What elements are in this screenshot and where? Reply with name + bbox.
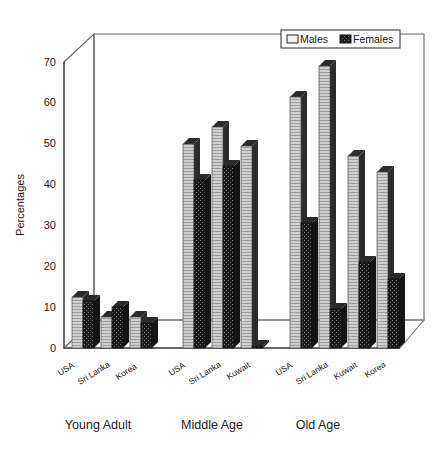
chart-canvas: 0 10 20 30 40 50 60 70 Percentages (0, 0, 433, 461)
group-label-middle-age: Middle Age (181, 418, 243, 432)
y-tick-20: 20 (44, 260, 56, 272)
bar-chart: 0 10 20 30 40 50 60 70 Percentages (0, 0, 433, 461)
y-tick-50: 50 (44, 137, 56, 149)
bar-middle-age-sri-lanka-females (223, 160, 240, 348)
y-axis-title: Percentages (14, 174, 26, 236)
bar-old-age-kuwait-females (359, 256, 376, 348)
legend-swatch-females (340, 35, 351, 43)
y-tick-60: 60 (44, 96, 56, 108)
y-tick-70: 70 (44, 56, 56, 68)
legend-swatch-males (287, 35, 298, 43)
legend: Males Females (281, 30, 400, 48)
bar-young-adult-korea-females (141, 317, 158, 348)
group-label-old-age: Old Age (296, 418, 341, 432)
bar-old-age-usa-females (301, 217, 318, 348)
group-label-young-adult: Young Adult (65, 418, 132, 432)
legend-label-females: Females (353, 33, 393, 45)
y-tick-30: 30 (44, 219, 56, 231)
bar-middle-age-kuwait-males (241, 140, 258, 348)
bar-young-adult-usa-females (83, 295, 100, 348)
y-tick-10: 10 (44, 301, 56, 313)
y-tick-0: 0 (50, 342, 56, 354)
bar-old-age-sri-lanka-males (319, 60, 336, 348)
bar-old-age-sri-lanka-females (330, 303, 347, 348)
bar-old-age-korea-females (388, 273, 405, 348)
legend-label-males: Males (300, 33, 328, 45)
bar-young-adult-sri-lanka-females (112, 301, 129, 348)
bar-middle-age-usa-females (194, 174, 211, 348)
group-labels: Young Adult Middle Age Old Age (65, 418, 340, 432)
y-tick-40: 40 (44, 178, 56, 190)
